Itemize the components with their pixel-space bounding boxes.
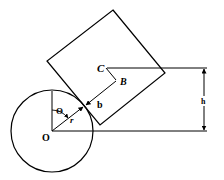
label-O: O (42, 132, 50, 143)
cube-on-cylinder-diagram: C B b h Θ r O (0, 0, 224, 180)
label-r: r (70, 115, 74, 125)
label-theta: Θ (56, 106, 63, 116)
label-b: b (97, 99, 103, 110)
label-B: B (119, 76, 127, 87)
center-offset-line (106, 68, 116, 80)
label-C: C (97, 62, 105, 74)
label-h: h (201, 97, 206, 106)
